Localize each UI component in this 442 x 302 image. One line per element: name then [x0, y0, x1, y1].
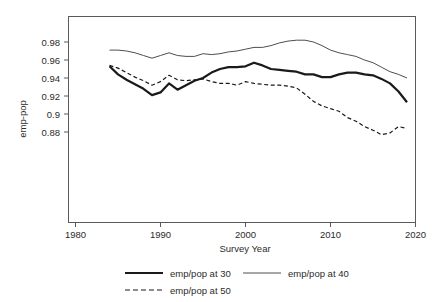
y-tick-label: 0.88 [42, 127, 61, 138]
x-tick-label: 2000 [235, 229, 256, 240]
chart-figure: 0.98 0.96 0.94 0.92 0.9 0.88 emp-pop 198… [0, 0, 442, 302]
x-tick-label: 1980 [65, 229, 86, 240]
y-tick-label: 0.9 [47, 109, 60, 120]
chart-background [0, 0, 442, 302]
x-tick-label: 2010 [320, 229, 341, 240]
y-tick-label: 0.96 [42, 55, 61, 66]
y-tick-label: 0.92 [42, 91, 61, 102]
x-tick-label: 2020 [405, 229, 426, 240]
legend-label-emp-pop-at-40: emp/pop at 40 [288, 268, 349, 279]
legend-label-emp-pop-at-30: emp/pop at 30 [170, 268, 231, 279]
x-axis-title: Survey Year [219, 243, 270, 254]
x-tick-label: 1990 [150, 229, 171, 240]
y-axis-title: emp-pop [17, 100, 28, 138]
legend-label-emp-pop-at-50: emp/pop at 50 [170, 285, 231, 296]
y-tick-label: 0.94 [42, 73, 61, 84]
y-tick-label: 0.98 [42, 37, 61, 48]
emp-pop-line-chart: 0.98 0.96 0.94 0.92 0.9 0.88 emp-pop 198… [0, 0, 442, 302]
